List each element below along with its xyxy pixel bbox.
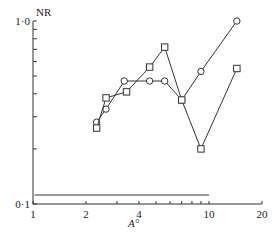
square-marker xyxy=(161,44,167,50)
circle-marker xyxy=(161,78,167,84)
square-marker xyxy=(234,65,240,71)
x-tick-label: 20 xyxy=(256,208,268,220)
square-marker xyxy=(146,64,152,70)
circle-marker xyxy=(121,78,127,84)
y-axis-label: NR xyxy=(36,6,52,18)
square-marker xyxy=(103,95,109,101)
x-tick-label: 1 xyxy=(30,208,36,220)
y-tick-label: 1·0 xyxy=(15,15,30,27)
series-line-circles xyxy=(97,21,237,122)
x-tick-label: 10 xyxy=(204,208,216,220)
square-marker xyxy=(179,97,185,103)
x-axis-label: A° xyxy=(127,217,140,229)
circle-marker xyxy=(198,68,204,74)
square-marker xyxy=(93,125,99,131)
plot-area xyxy=(35,18,241,195)
square-marker xyxy=(198,146,204,152)
chart: 12410200·11·0 NR A° xyxy=(0,0,278,233)
y-tick-label: 0·1 xyxy=(15,198,30,210)
circle-marker xyxy=(103,106,109,112)
series-line-squares xyxy=(97,47,237,149)
circle-marker xyxy=(146,78,152,84)
x-tick-label: 2 xyxy=(83,208,89,220)
circle-marker xyxy=(234,18,240,24)
square-marker xyxy=(123,89,129,95)
axes: 12410200·11·0 xyxy=(15,15,268,220)
